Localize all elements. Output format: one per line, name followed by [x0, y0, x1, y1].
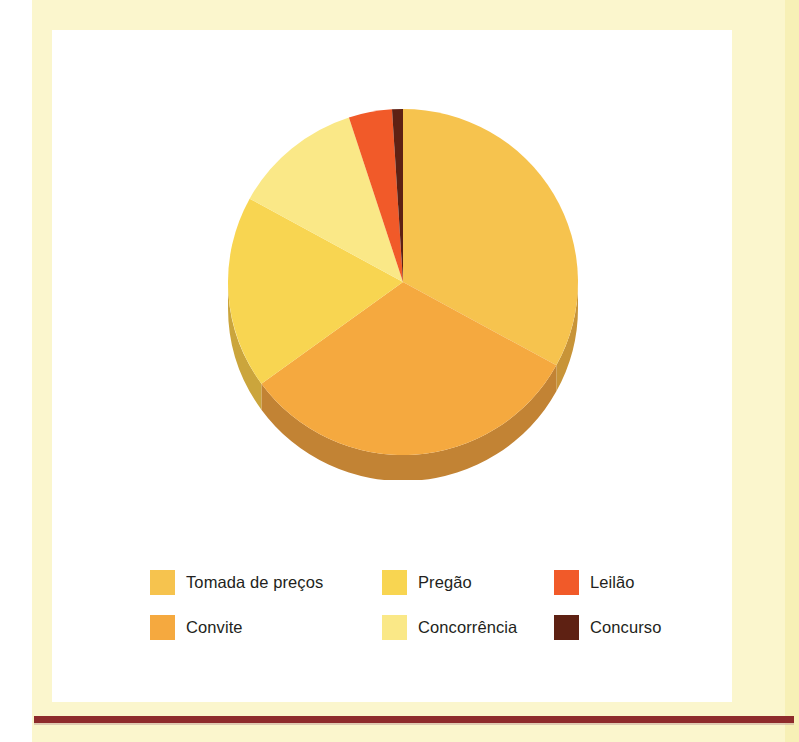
pie-chart-svg	[52, 30, 732, 480]
legend-swatch-concurso	[554, 615, 579, 640]
page-root: Tomada de preços Pregão Leilão Convite C…	[0, 0, 799, 742]
legend-label-concorrencia: Concorrência	[418, 618, 517, 637]
legend-item-concurso[interactable]: Concurso	[554, 615, 684, 640]
legend-label-leilao: Leilão	[590, 573, 635, 592]
bottom-rule	[34, 716, 794, 723]
legend-swatch-pregao	[382, 570, 407, 595]
legend-item-concorrencia[interactable]: Concorrência	[382, 615, 554, 640]
pie-chart	[52, 30, 732, 480]
bottom-rule-shadow	[34, 723, 794, 725]
legend-item-tomada-de-precos[interactable]: Tomada de preços	[150, 570, 382, 595]
chart-area: Tomada de preços Pregão Leilão Convite C…	[52, 30, 732, 702]
legend-swatch-convite	[150, 615, 175, 640]
legend-swatch-leilao	[554, 570, 579, 595]
legend-label-pregao: Pregão	[418, 573, 472, 592]
legend-swatch-tomada-de-precos	[150, 570, 175, 595]
legend-label-tomada-de-precos: Tomada de preços	[186, 573, 323, 592]
legend-swatch-concorrencia	[382, 615, 407, 640]
legend-label-convite: Convite	[186, 618, 243, 637]
chart-legend: Tomada de preços Pregão Leilão Convite C…	[150, 560, 680, 650]
legend-item-pregao[interactable]: Pregão	[382, 570, 554, 595]
paper-right-edge	[785, 0, 799, 742]
legend-label-concurso: Concurso	[590, 618, 661, 637]
legend-item-convite[interactable]: Convite	[150, 615, 382, 640]
legend-item-leilao[interactable]: Leilão	[554, 570, 684, 595]
